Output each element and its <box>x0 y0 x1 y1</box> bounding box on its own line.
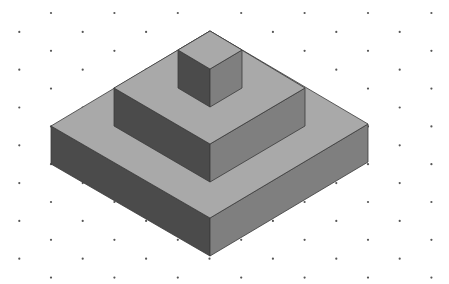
grid-dot <box>304 50 306 52</box>
grid-dot <box>50 239 52 241</box>
grid-dot <box>113 277 115 279</box>
grid-dot <box>113 239 115 241</box>
grid-dot <box>145 220 147 222</box>
grid-dot <box>367 88 369 90</box>
grid-dot <box>82 69 84 71</box>
grid-dot <box>430 50 432 52</box>
grid-dot <box>304 201 306 203</box>
grid-dot <box>272 31 274 33</box>
grid-dot <box>304 239 306 241</box>
grid-dot <box>145 31 147 33</box>
grid-dot <box>145 258 147 260</box>
grid-dot <box>113 50 115 52</box>
grid-dot <box>399 144 401 146</box>
grid-dot <box>18 69 20 71</box>
grid-dot <box>430 88 432 90</box>
grid-dot <box>50 12 52 14</box>
grid-dot <box>177 277 179 279</box>
grid-dot <box>208 258 210 260</box>
grid-dot <box>335 31 337 33</box>
grid-dot <box>18 144 20 146</box>
grid-dot <box>367 163 369 165</box>
stepped-pyramid <box>51 31 368 256</box>
grid-dot <box>113 12 115 14</box>
grid-dot <box>430 12 432 14</box>
grid-dot <box>18 258 20 260</box>
grid-dot <box>430 277 432 279</box>
grid-dot <box>50 88 52 90</box>
grid-dot <box>82 258 84 260</box>
grid-dot <box>399 31 401 33</box>
grid-dot <box>304 277 306 279</box>
grid-dot <box>82 31 84 33</box>
grid-dot <box>272 258 274 260</box>
grid-dot <box>399 220 401 222</box>
grid-dot <box>50 50 52 52</box>
grid-dot <box>335 258 337 260</box>
grid-dot <box>240 277 242 279</box>
grid-dot <box>335 182 337 184</box>
isometric-pyramid-diagram <box>0 0 449 284</box>
grid-dot <box>399 258 401 260</box>
grid-dot <box>335 69 337 71</box>
grid-dot <box>50 277 52 279</box>
grid-dot <box>367 12 369 14</box>
grid-dot <box>177 12 179 14</box>
grid-dot <box>399 106 401 108</box>
grid-dot <box>18 220 20 222</box>
grid-dot <box>50 201 52 203</box>
grid-dot <box>240 239 242 241</box>
grid-dot <box>82 220 84 222</box>
grid-dot <box>367 277 369 279</box>
grid-dot <box>367 239 369 241</box>
grid-dot <box>18 31 20 33</box>
grid-dot <box>399 182 401 184</box>
grid-dot <box>18 106 20 108</box>
grid-dot <box>430 239 432 241</box>
grid-dot <box>367 50 369 52</box>
grid-dot <box>272 220 274 222</box>
grid-dot <box>430 201 432 203</box>
grid-dot <box>177 239 179 241</box>
grid-dot <box>18 182 20 184</box>
grid-dot <box>304 12 306 14</box>
grid-dot <box>430 163 432 165</box>
grid-dot <box>367 201 369 203</box>
grid-dot <box>399 69 401 71</box>
grid-dot <box>240 12 242 14</box>
grid-dot <box>430 125 432 127</box>
grid-dot <box>335 220 337 222</box>
